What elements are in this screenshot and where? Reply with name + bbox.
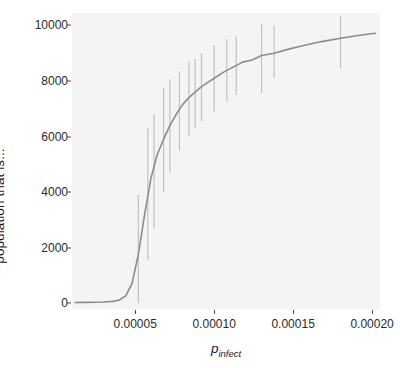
- y-tick-label: 2000: [41, 241, 68, 255]
- y-axis-title: population that is...: [0, 0, 22, 368]
- y-tick-label: 8000: [41, 74, 68, 88]
- x-axis-title-subscript: infect: [218, 348, 241, 359]
- y-axis-title-text: population that is...: [0, 148, 7, 263]
- y-tick-mark: [67, 136, 71, 137]
- x-tick-label: 0.00005: [113, 317, 156, 331]
- x-tick-label: 0.00010: [192, 317, 235, 331]
- x-tick-mark: [372, 310, 373, 314]
- y-tick-mark: [67, 192, 71, 193]
- y-tick-mark: [67, 247, 71, 248]
- y-tick-mark: [67, 81, 71, 82]
- y-tick-label: 4000: [41, 185, 68, 199]
- y-tick-label: 10000: [35, 18, 68, 32]
- y-tick-label: 6000: [41, 130, 68, 144]
- x-tick-label: 0.00015: [271, 317, 314, 331]
- plot-panel: [72, 13, 380, 310]
- x-tick-label: 0.00020: [350, 317, 393, 331]
- error-bars: [138, 16, 340, 303]
- x-tick-mark: [135, 310, 136, 314]
- x-tick-mark: [214, 310, 215, 314]
- x-tick-mark: [293, 310, 294, 314]
- chart-figure: 0200040006000800010000 0.000050.000100.0…: [0, 0, 400, 368]
- plot-area: [72, 13, 380, 310]
- series-line: [75, 33, 375, 302]
- y-tick-mark: [67, 25, 71, 26]
- x-axis-title: pinfect: [72, 341, 380, 359]
- y-tick-mark: [67, 303, 71, 304]
